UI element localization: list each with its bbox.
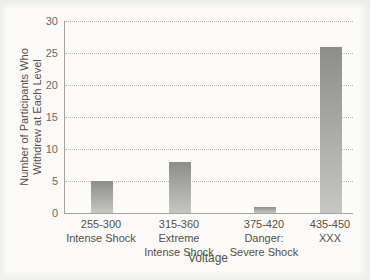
gridline-20 (65, 85, 353, 86)
bar-375-420 (254, 207, 276, 213)
y-tick-label-15: 15 (0, 110, 58, 124)
gridline-30 (65, 21, 353, 22)
y-tick-label-25: 25 (0, 46, 58, 60)
x-category-label-435-450: 435-450XXX (272, 217, 370, 245)
x-axis-title: Voltage (64, 251, 352, 265)
plot-area (64, 21, 353, 214)
voltage-range-label: 435-450 (272, 217, 370, 231)
y-tick-label-20: 20 (0, 78, 58, 92)
y-tick-label-10: 10 (0, 142, 58, 156)
shock-level-label-line: XXX (272, 231, 370, 245)
bar-chart-figure: Number of Participants Who Withdrew at E… (0, 0, 370, 280)
bar-315-360 (169, 162, 191, 213)
y-tick-label-5: 5 (0, 174, 58, 188)
gridline-15 (65, 117, 353, 118)
y-tick-label-30: 30 (0, 14, 58, 28)
gridline-10 (65, 149, 353, 150)
bar-255-300 (91, 181, 113, 213)
gridline-25 (65, 53, 353, 54)
bar-435-450 (320, 47, 342, 213)
